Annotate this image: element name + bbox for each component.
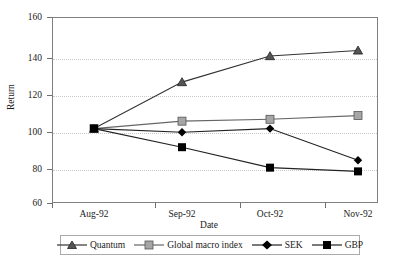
x-tick-label-nov-92: Nov-92 xyxy=(343,209,372,219)
legend-item-quantum[interactable]: Quantum xyxy=(57,239,125,251)
y-tick-mark-160 xyxy=(47,17,52,18)
y-tick-label-80: 80 xyxy=(33,164,43,174)
y-tick-mark-120 xyxy=(47,95,52,96)
legend-item-gbp[interactable]: GBP xyxy=(312,239,363,251)
x-axis-title: Date xyxy=(0,220,418,230)
y-tick-label-60: 60 xyxy=(33,198,43,208)
legend-label-quantum: Quantum xyxy=(90,240,125,250)
gridline-80 xyxy=(53,170,377,171)
y-tick-label-160: 160 xyxy=(28,12,42,22)
y-tick-label-140: 140 xyxy=(28,53,42,63)
legend-item-sek[interactable]: SEK xyxy=(252,239,303,251)
gridline-100 xyxy=(53,133,377,134)
y-tick-mark-80 xyxy=(47,169,52,170)
y-tick-mark-140 xyxy=(47,58,52,59)
diamond-marker-icon xyxy=(252,239,282,251)
legend-label-global-macro-index: Global macro index xyxy=(167,240,242,250)
x-tick-label-sep-92: Sep-92 xyxy=(169,209,196,219)
x-tick-mark-2 xyxy=(240,203,241,208)
legend-label-gbp: GBP xyxy=(345,240,363,250)
x-tick-label-oct-92: Oct-92 xyxy=(257,209,283,219)
x-tick-label-aug-92: Aug-92 xyxy=(79,209,108,219)
y-tick-label-100: 100 xyxy=(28,127,42,137)
triangle-marker-icon xyxy=(57,239,87,251)
gridline-120 xyxy=(53,96,377,97)
x-tick-mark-3 xyxy=(325,203,326,208)
x-tick-mark-1 xyxy=(155,203,156,208)
plot-area xyxy=(52,17,378,203)
x-tick-mark-0 xyxy=(52,203,53,208)
return-line-chart: 160 140 120 100 80 60 Return Aug-92 Sep-… xyxy=(0,0,418,264)
legend-item-global-macro-index[interactable]: Global macro index xyxy=(134,239,242,251)
legend-label-sek: SEK xyxy=(285,240,303,250)
gridline-140 xyxy=(53,59,377,60)
y-tick-label-120: 120 xyxy=(28,90,42,100)
y-axis-title: Return xyxy=(6,84,16,110)
y-axis: 160 140 120 100 80 60 xyxy=(0,0,52,220)
y-tick-mark-100 xyxy=(47,132,52,133)
square-marker-icon xyxy=(134,239,164,251)
legend: Quantum Global macro index SEK GBP xyxy=(60,235,360,255)
filled-square-marker-icon xyxy=(312,239,342,251)
